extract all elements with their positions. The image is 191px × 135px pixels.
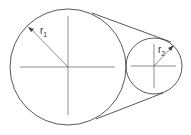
label-r2: r2 xyxy=(158,44,165,57)
lower-tangent-line xyxy=(96,93,163,119)
upper-tangent-line xyxy=(92,13,171,42)
label-r1: r1 xyxy=(40,25,47,38)
belt-pulley-diagram: r1 r2 xyxy=(0,0,191,135)
radius-r1-line xyxy=(29,27,68,67)
